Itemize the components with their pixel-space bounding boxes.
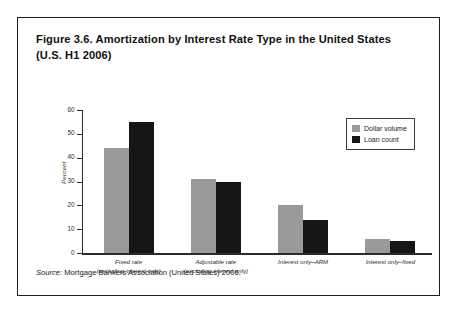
chart-legend: Dollar volume Loan count — [346, 118, 415, 150]
x-axis-line — [82, 253, 432, 255]
legend-label-dollar-volume: Dollar volume — [364, 125, 407, 132]
y-axis-tick-label: 60 — [67, 106, 74, 113]
figure-title-line-2: (U.S. H1 2006) — [36, 48, 422, 64]
y-axis-tick-label: 40 — [67, 153, 74, 160]
source-text: Mortgage Bankers Association (United Sta… — [64, 268, 240, 277]
y-axis-tick: 10 — [77, 229, 82, 230]
source-prefix: Source: — [36, 268, 62, 277]
bar-loan-count — [303, 220, 328, 253]
y-axis-tick: 20 — [77, 205, 82, 206]
bar-dollar-volume — [365, 239, 390, 253]
source-note: Source: Mortgage Bankers Association (Un… — [36, 268, 241, 277]
x-axis-category-label: Interest only–fixed — [335, 258, 445, 267]
figure-frame: Figure 3.6. Amortization by Interest Rat… — [17, 17, 440, 296]
legend-swatch-icon-loan-count — [352, 136, 360, 144]
chart-plot-area: Percent 0102030405060 Fixed rate(excludi… — [62, 92, 432, 260]
y-axis-tick-label: 0 — [71, 249, 75, 256]
x-axis-category-label-line: Interest only–fixed — [335, 258, 445, 267]
bar-dollar-volume — [278, 205, 303, 253]
y-axis-tick: 60 — [77, 110, 82, 111]
y-axis-tick: 40 — [77, 158, 82, 159]
y-axis-tick-label: 20 — [67, 201, 74, 208]
y-axis-tick: 30 — [77, 182, 82, 183]
y-axis-tick-label: 50 — [67, 129, 74, 136]
legend-item-dollar-volume: Dollar volume — [352, 123, 407, 134]
bar-loan-count — [390, 241, 415, 253]
y-axis-title: Percent — [60, 161, 67, 184]
legend-label-loan-count: Loan count — [364, 136, 399, 143]
bar-loan-count — [216, 182, 241, 254]
legend-swatch-icon-dollar-volume — [352, 125, 360, 133]
y-axis-tick: 0 — [77, 253, 82, 254]
figure-title-line-1: Figure 3.6. Amortization by Interest Rat… — [36, 32, 422, 48]
bar-dollar-volume — [191, 179, 216, 253]
y-axis-tick-label: 10 — [67, 225, 74, 232]
y-axis-tick-label: 30 — [67, 177, 74, 184]
y-axis-tick: 50 — [77, 134, 82, 135]
bar-loan-count — [129, 122, 154, 253]
legend-item-loan-count: Loan count — [352, 134, 407, 145]
figure-title: Figure 3.6. Amortization by Interest Rat… — [36, 32, 422, 63]
bar-dollar-volume — [104, 148, 129, 253]
